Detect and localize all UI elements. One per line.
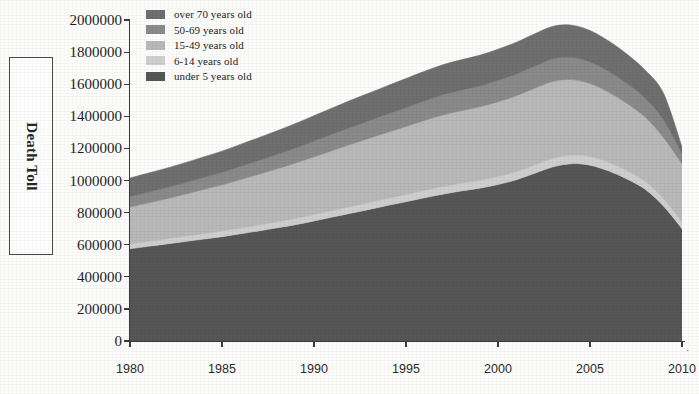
y-tick-label: 200000 [77, 300, 122, 317]
legend-item-label: 6-14 years old [174, 55, 238, 67]
legend-swatch-icon [146, 10, 165, 19]
y-tick-label: 1600000 [70, 76, 123, 93]
x-tick-mark [497, 341, 498, 347]
legend-item-label: 50-69 years old [174, 24, 244, 36]
y-tick-label: 600000 [77, 236, 122, 253]
x-tick-label: 1990 [300, 362, 328, 376]
legend-item[interactable]: 6-14 years old [146, 55, 252, 67]
legend-swatch-icon [146, 56, 165, 65]
chart-figure: Death Toll 02000004000006000008000001000… [0, 0, 699, 394]
x-axis-line [129, 341, 685, 342]
x-tick-label: 2005 [576, 362, 604, 376]
y-tick-label: 1400000 [70, 108, 123, 125]
y-tick-label: 1800000 [70, 44, 123, 61]
legend-item[interactable]: 15-49 years old [146, 39, 252, 51]
y-axis-title: Death Toll [23, 122, 40, 190]
legend-swatch-icon [146, 72, 165, 81]
legend-item-label: under 5 years old [174, 70, 252, 82]
legend-item-label: 15-49 years old [174, 39, 244, 51]
y-tick-label: 2000000 [70, 12, 123, 29]
x-tick-label: 1985 [208, 362, 236, 376]
chart-legend: over 70 years old50-69 years old15-49 ye… [146, 8, 252, 82]
x-tick-mark [589, 341, 590, 347]
legend-swatch-icon [146, 41, 165, 50]
x-tick-mark [681, 341, 682, 347]
y-tick-label: 1000000 [70, 172, 123, 189]
x-tick-mark [221, 341, 222, 347]
x-tick-label: 1980 [116, 362, 144, 376]
y-tick-label: 400000 [77, 268, 122, 285]
legend-item[interactable]: 50-69 years old [146, 24, 252, 36]
x-tick-mark [313, 341, 314, 347]
y-tick-label: 800000 [77, 204, 122, 221]
y-axis-title-box: Death Toll [9, 57, 53, 255]
y-tick-label: 1200000 [70, 140, 123, 157]
x-tick-label: 2010 [668, 362, 696, 376]
legend-item-label: over 70 years old [174, 8, 252, 20]
x-tick-mark [129, 341, 130, 347]
y-tick-label: 0 [115, 333, 123, 350]
x-tick-label: 1995 [392, 362, 420, 376]
x-axis-trailing-mark: · [686, 345, 689, 356]
legend-swatch-icon [146, 25, 165, 34]
legend-item[interactable]: under 5 years old [146, 70, 252, 82]
x-tick-mark [405, 341, 406, 347]
legend-item[interactable]: over 70 years old [146, 8, 252, 20]
x-tick-label: 2000 [484, 362, 512, 376]
